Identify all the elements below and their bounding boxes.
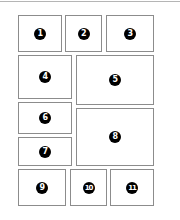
top-divider xyxy=(0,1,180,2)
number-badge: 9 xyxy=(36,182,48,194)
panel-4: 4 xyxy=(18,55,72,99)
number-badge: 3 xyxy=(124,28,136,40)
panel-11: 11 xyxy=(110,169,154,206)
panel-7: 7 xyxy=(18,137,72,166)
number-badge: 2 xyxy=(78,28,90,40)
number-badge: 8 xyxy=(109,131,121,143)
panel-10: 10 xyxy=(70,169,107,206)
panel-8: 8 xyxy=(76,108,154,166)
panel-3: 3 xyxy=(106,15,154,52)
number-badge: 11 xyxy=(126,182,138,194)
number-badge: 6 xyxy=(39,112,51,124)
panel-5: 5 xyxy=(76,55,154,105)
number-badge: 5 xyxy=(109,74,121,86)
panel-1: 1 xyxy=(18,15,62,52)
number-badge: 4 xyxy=(39,71,51,83)
panel-9: 9 xyxy=(18,169,66,206)
number-badge: 7 xyxy=(39,146,51,158)
number-badge: 1 xyxy=(34,28,46,40)
panel-6: 6 xyxy=(18,102,72,134)
panel-2: 2 xyxy=(65,15,102,52)
number-badge: 10 xyxy=(83,182,95,194)
